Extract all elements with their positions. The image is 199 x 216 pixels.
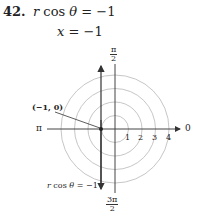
label-zero: 0 bbox=[185, 123, 191, 133]
label-3pi-over-2: 3π 2 bbox=[106, 196, 118, 213]
ring-label-2: 2 bbox=[138, 133, 143, 142]
ring-label-3: 3 bbox=[152, 133, 157, 142]
ring-label-1: 1 bbox=[125, 133, 130, 142]
label-pi: π bbox=[36, 123, 42, 133]
label-pi-over-2: π 2 bbox=[110, 46, 117, 63]
label-point: (−1, 0) bbox=[32, 102, 63, 112]
label-line-equation: r cos θ = −1 bbox=[47, 181, 98, 190]
ring-label-4: 4 bbox=[166, 133, 171, 142]
polar-graph bbox=[0, 0, 199, 216]
